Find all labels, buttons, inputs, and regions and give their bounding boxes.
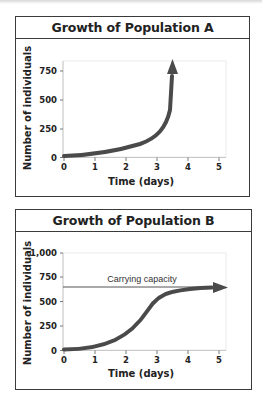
population-b-curve	[64, 288, 212, 350]
x-tick-label: 2	[123, 355, 129, 365]
plot-area-b	[63, 253, 226, 350]
x-tick-label: 4	[185, 355, 191, 365]
x-tick-label: 0	[61, 355, 67, 365]
x-tick-label: 5	[216, 355, 222, 365]
x-ticks-b	[64, 351, 219, 355]
carrying-capacity-label: Carrying capacity	[107, 274, 177, 284]
x-axis-title-b: Time (days)	[108, 368, 174, 379]
y-ticks-b	[60, 253, 63, 351]
chart-b-plot: 1,000 750 500 250 0 0 1 2 3 4 5 Time (da…	[0, 0, 262, 405]
y-tick-label: 500	[39, 297, 57, 307]
y-tick-label: 250	[39, 321, 57, 331]
y-tick-label: 0	[51, 346, 57, 356]
x-tick-label: 1	[92, 355, 98, 365]
x-tick-label: 3	[154, 355, 160, 365]
y-tick-label: 750	[39, 272, 57, 282]
y-tick-label: 1,000	[30, 248, 57, 258]
y-axis-title-b: Number of individuals	[22, 241, 33, 365]
